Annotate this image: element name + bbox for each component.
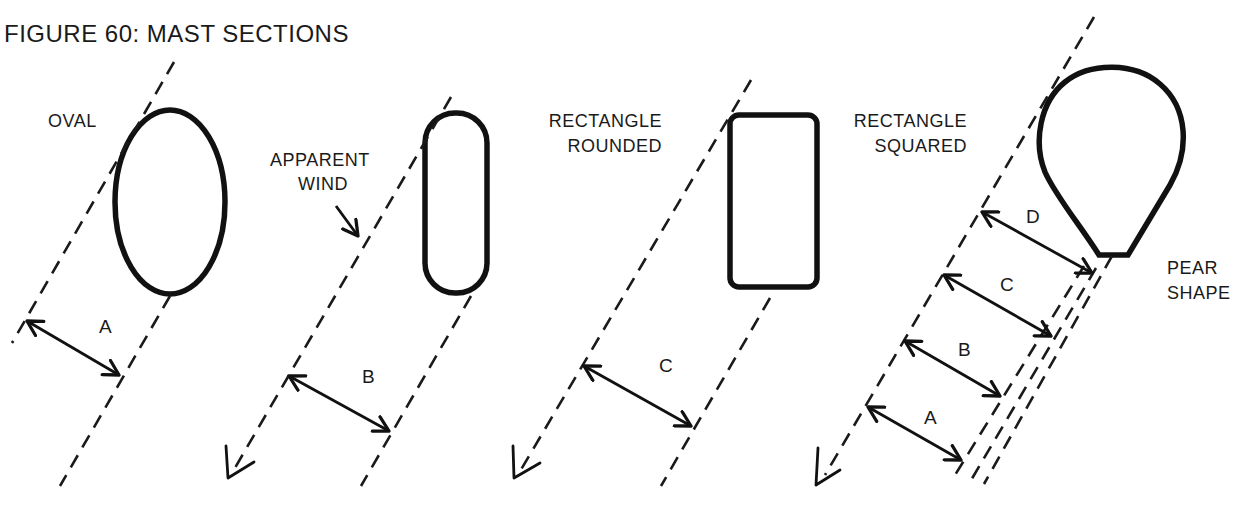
- rectangle-rounded-label-line2: ROUNDED: [567, 136, 662, 156]
- dimension-arrow-b: [905, 341, 1000, 396]
- apparent-wind-label-line2: WIND: [298, 174, 348, 194]
- pear-shape-outline: [1039, 67, 1183, 255]
- dimension-arrow-a: [868, 407, 961, 460]
- dimension-label-c: C: [659, 355, 673, 376]
- oval-section: OVAL A: [12, 62, 225, 486]
- rectangle-rounded-shape: [425, 113, 487, 293]
- apparent-wind-label-line1: APPARENT: [270, 150, 370, 170]
- oval-label: OVAL: [48, 111, 97, 131]
- apparent-wind-annotation: APPARENT WIND: [270, 150, 370, 236]
- dimension-label-a: A: [924, 407, 937, 428]
- wind-line-right-a: [952, 266, 1084, 480]
- rectangle-squared-label-line1: RECTANGLE: [854, 111, 967, 131]
- dimension-label-c: C: [1000, 274, 1014, 295]
- apparent-wind-pointer-arrow: [336, 206, 358, 236]
- dimension-arrow-c: [944, 275, 1051, 336]
- dimension-label-d: D: [1026, 206, 1040, 227]
- dimension-label-a: A: [99, 316, 112, 337]
- wind-line-right: [361, 296, 471, 486]
- dimension-label-b: B: [362, 366, 375, 387]
- wind-line-right: [60, 296, 170, 486]
- wind-line-right: [661, 298, 770, 486]
- wind-line-left: [12, 62, 174, 343]
- dimension-label-b: B: [958, 339, 971, 360]
- wind-direction-arrowhead-icon: [226, 446, 254, 478]
- dimension-arrow-c: [584, 366, 691, 426]
- wind-line-left: [825, 17, 1094, 475]
- rectangle-rounded-label-line1: RECTANGLE: [549, 111, 662, 131]
- mast-sections-diagram: OVAL A APPARENT WIND RECTANGLE ROUNDED B…: [0, 0, 1259, 505]
- rectangle-squared-label-line2: SQUARED: [874, 136, 967, 156]
- pear-shape-section: PEAR SHAPE D C B A: [816, 17, 1231, 485]
- pear-shape-label-line2: SHAPE: [1167, 283, 1231, 303]
- rectangle-squared-shape: [730, 115, 817, 287]
- oval-shape: [115, 110, 225, 294]
- pear-shape-label-line1: PEAR: [1167, 258, 1218, 278]
